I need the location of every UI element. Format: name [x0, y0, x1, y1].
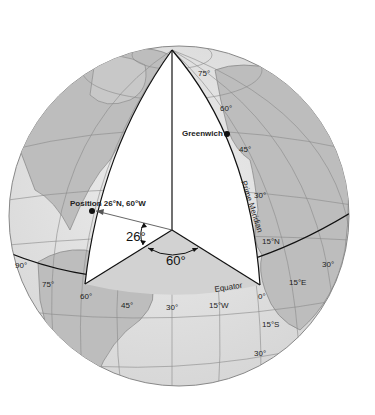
greenwich-dot	[224, 131, 230, 137]
lat-label-30n: 30°	[254, 192, 266, 200]
latitude-angle-label: 26°	[126, 230, 146, 243]
lon-label-30: 30°	[166, 304, 178, 312]
lon-label-0: 0°	[258, 293, 266, 301]
lat-label-15s: 15°S	[262, 321, 279, 329]
lon-label-45: 45°	[121, 302, 133, 310]
lon-label-15e: 15°E	[289, 279, 306, 287]
lon-label-60: 60°	[80, 293, 92, 301]
lat-label-45: 45°	[239, 146, 251, 154]
position-label: Position 26°N, 60°W	[70, 200, 146, 208]
lon-label-30e: 30°	[322, 261, 334, 269]
lon-label-75: 75°	[42, 281, 54, 289]
globe-diagram	[0, 0, 375, 415]
lat-label-15n: 15°N	[262, 238, 280, 246]
lat-label-60: 60°	[220, 105, 232, 113]
lat-label-30s: 30°	[254, 350, 266, 358]
greenwich-label: Greenwich	[182, 130, 223, 138]
lon-label-90: 90°	[15, 262, 27, 270]
longitude-angle-label: 60°	[166, 254, 186, 267]
lat-label-75: 75°	[198, 70, 210, 78]
lon-label-15w: 15°W	[209, 302, 229, 310]
position-dot	[89, 208, 95, 214]
